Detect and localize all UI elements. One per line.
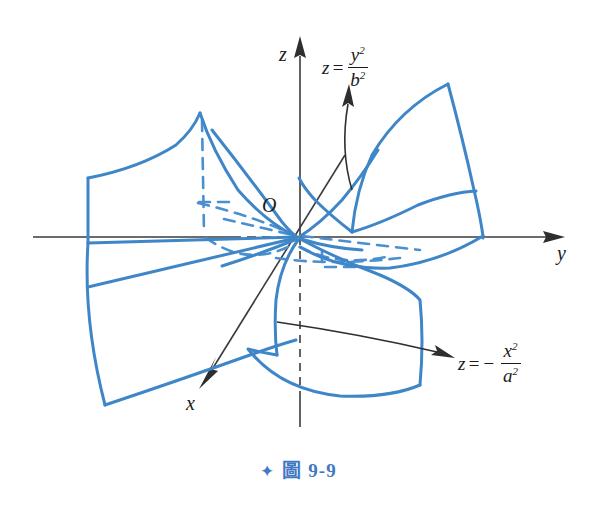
caption-star-icon: ✦ (260, 462, 275, 481)
y-axis-label: y (557, 243, 566, 263)
lower-left-wing-left-edge (87, 243, 105, 405)
annotation-y-lead: z (322, 57, 329, 79)
annotation-z-equals-y-squared-over-b-squared: z = y2 b2 (322, 44, 368, 91)
annotation-x-denominator: a2 (500, 364, 521, 387)
annotation-x-fraction: x2 a2 (500, 340, 521, 387)
upper-right-wing-inner-curve (352, 84, 448, 232)
origin-label: O (262, 195, 276, 215)
annotation-x-numerator-exponent: 2 (512, 340, 518, 352)
figure-caption: ✦圖9-9 (0, 455, 597, 482)
annotation-z-equals-negative-x-squared-over-a-squared: z = − x2 a2 (458, 340, 521, 387)
z-axis-label: z (279, 44, 287, 64)
annotation-y-denominator-exponent: 2 (360, 69, 366, 81)
annotation-x-denominator-exponent: 2 (513, 365, 519, 377)
annotation-x-numerator: x2 (501, 340, 521, 364)
annotation-x-equals: = (467, 353, 480, 375)
lower-left-wing-bottom-curve (105, 340, 296, 405)
leader-line-x-squared (277, 322, 437, 352)
figure-container: z y x O z = y2 b2 z = − x2 a2 ✦圖9-9 (0, 0, 597, 509)
annotation-x-sign: − (482, 353, 495, 375)
caption-number: 9-9 (308, 460, 336, 481)
parabola-trace-y-squared-left (212, 130, 297, 237)
annotation-x-lead: z (458, 353, 465, 375)
saddle-surface-drawing (0, 0, 597, 509)
caption-label: 圖 (282, 460, 302, 481)
x-axis-label: x (186, 393, 195, 413)
leader-line-y-squared (345, 104, 352, 190)
annotation-y-equals: = (331, 57, 344, 79)
annotation-y-numerator: y2 (348, 44, 368, 68)
upper-left-wing-top-curve (88, 113, 200, 178)
annotation-y-fraction: y2 b2 (347, 44, 368, 91)
upper-right-wing-band-line (352, 191, 476, 232)
surface-edges-group (87, 84, 483, 405)
upper-right-wing-top-edge (448, 84, 483, 236)
z-axis-arrowhead (294, 36, 306, 58)
annotation-y-numerator-exponent: 2 (359, 44, 365, 56)
annotation-y-denominator: b2 (347, 68, 368, 91)
left-band-lower-line (88, 238, 296, 287)
hidden-peak-drop-line (202, 120, 204, 232)
lower-middle-wing-bottom-curve (248, 349, 420, 396)
left-band-upper-line (88, 237, 296, 243)
